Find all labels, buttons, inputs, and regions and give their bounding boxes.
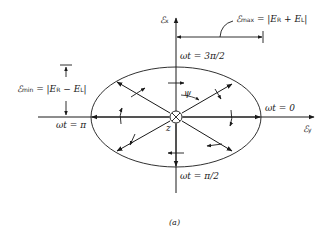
phase-label-left: ωt = π [56, 121, 86, 130]
max-dimension [177, 21, 263, 43]
origin-z-symbol [170, 111, 182, 123]
min-expr-suffix: | [84, 84, 87, 94]
figure-caption: (a) [169, 219, 180, 227]
phase-label-top: ωt = 3π/2 [180, 52, 225, 61]
min-expr-prefix: = |E [33, 84, 56, 94]
ey-subscript: y [308, 126, 312, 133]
phase-label-right: ωt = 0 [265, 104, 295, 113]
polarization-ellipse-diagram [0, 0, 336, 237]
ex-axis-label: ℰx [160, 16, 169, 25]
phase-label-bottom: ωt = π/2 [180, 172, 219, 181]
max-expr-suffix: | [304, 14, 307, 24]
max-subscript: max [241, 16, 254, 23]
max-expr-mid: + E [281, 14, 301, 24]
max-magnitude-label: ℰmax = |ER + EL| [236, 15, 307, 24]
min-expr-mid: − E [60, 84, 80, 94]
ex-subscript: x [165, 17, 169, 24]
min-magnitude-label: ℰmin = |ER − EL| [17, 85, 87, 94]
min-subscript: min [22, 86, 33, 93]
max-expr-prefix: = |E [254, 14, 277, 24]
psi-label: ψ [184, 89, 191, 98]
ey-axis-label: ℰy [303, 125, 312, 134]
origin-z-label: z [166, 124, 171, 133]
